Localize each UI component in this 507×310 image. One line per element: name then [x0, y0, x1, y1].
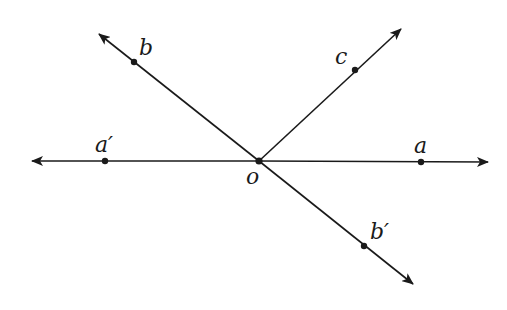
label-c: c [335, 44, 347, 69]
label-a: a [414, 133, 427, 158]
label-a-prime: a′ [95, 132, 113, 157]
line-b-segment [99, 34, 259, 161]
point-a-prime [102, 158, 108, 164]
point-b-prime [361, 243, 367, 249]
label-o: o [246, 164, 259, 189]
line-a-a-prime [259, 161, 488, 162]
point-a [418, 159, 424, 165]
label-b: b [139, 35, 153, 60]
geometry-diagram: a a′ b b′ c o [0, 0, 507, 310]
ray-c [259, 29, 401, 161]
label-b-prime: b′ [370, 219, 389, 244]
point-c [352, 67, 358, 73]
line-b-prime-segment [259, 161, 413, 284]
point-b [131, 59, 137, 65]
